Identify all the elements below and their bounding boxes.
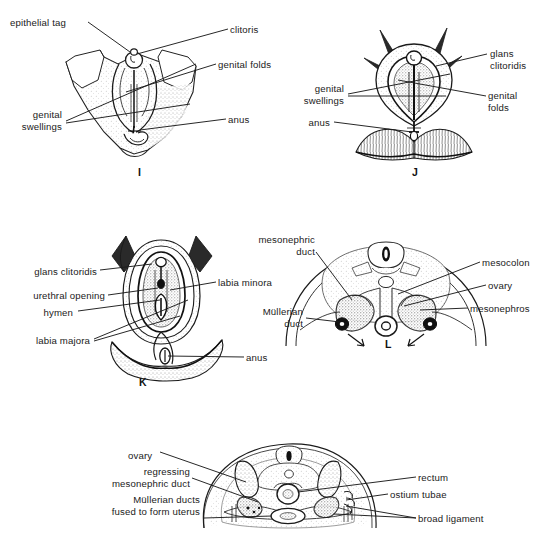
label-clitoris: clitoris (230, 24, 258, 36)
panel-m-artwork (203, 444, 376, 528)
panel-j-artwork (356, 28, 472, 160)
label-broad-ligament: broad ligament (418, 513, 484, 525)
label-anus: anus (228, 114, 249, 126)
panel-letter-i: I (138, 166, 141, 178)
panel-letter-j: J (412, 166, 418, 178)
label-ovary-m: ovary (128, 450, 152, 462)
panel-i-artwork (66, 49, 196, 157)
label-genital-folds-j: genital folds (488, 90, 517, 113)
label-urethral-opening: urethral opening (7, 290, 105, 302)
leader-lines (66, 22, 487, 518)
label-ovary-l: ovary (488, 280, 512, 292)
label-labia-majora: labia majora (7, 335, 90, 347)
label-anus-j: anus (288, 117, 330, 129)
label-mesocolon: mesocolon (482, 257, 530, 269)
panel-letter-k: K (139, 376, 147, 388)
label-anus-k: anus (246, 352, 267, 364)
label-genital-swellings-j: genital swellings (282, 83, 344, 106)
label-epithelial-tag: epithelial tag (10, 17, 66, 29)
label-hymen: hymen (7, 307, 73, 319)
label-glans-clitoridis-k: glans clitoridis (7, 266, 97, 278)
label-mesonephros: mesonephros (470, 303, 530, 315)
label-genital-swellings: genital swellings (0, 109, 62, 132)
label-glans-clitoridis-j: glans clitoridis (490, 48, 526, 71)
label-regressing-mesonephric-duct: regressing mesonephric duct (60, 466, 190, 489)
label-mullerian-duct: Müllerian duct (233, 306, 303, 329)
panel-l-artwork (286, 242, 486, 346)
panel-k-artwork (111, 236, 223, 381)
panel-letter-l: L (385, 338, 392, 350)
label-mullerian-ducts-fused: Müllerian ducts fused to form uterus (55, 494, 200, 517)
label-genital-folds: genital folds (218, 59, 271, 71)
anatomical-figure-plate: epithelial tag clitoris genital folds ge… (0, 0, 547, 549)
label-ostium-tubae: ostium tubae (390, 489, 447, 501)
label-mesonephric-duct: mesonephric duct (245, 234, 315, 257)
label-rectum: rectum (418, 472, 448, 484)
label-labia-minora: labia minora (218, 277, 272, 289)
